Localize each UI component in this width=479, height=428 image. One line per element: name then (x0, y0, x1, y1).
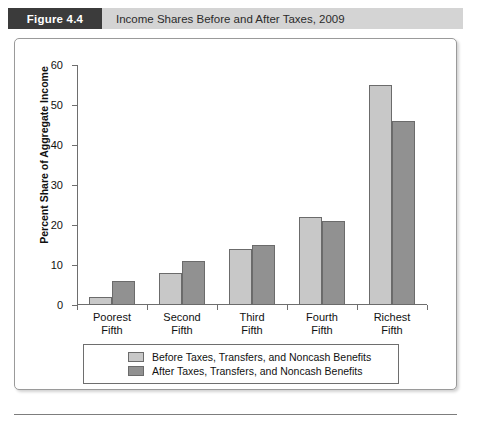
x-tick (77, 305, 78, 310)
bar (112, 281, 135, 305)
legend-entry-label: After Taxes, Transfers, and Noncash Bene… (152, 365, 363, 377)
bar (89, 297, 112, 305)
plot-area: 0102030405060 PoorestFifthSecondFifthThi… (77, 65, 427, 305)
x-category-label: RichestFifth (346, 311, 438, 337)
figure-header: Figure 4.4 Income Shares Before and Afte… (8, 8, 463, 29)
bar (182, 261, 205, 305)
y-tick-label-60: 60 (51, 59, 63, 71)
legend-entry: Before Taxes, Transfers, and Noncash Ben… (84, 350, 398, 364)
figure-number-badge: Figure 4.4 (8, 8, 102, 29)
bar (369, 85, 392, 305)
figure-caption: Income Shares Before and After Taxes, 20… (102, 8, 345, 29)
legend-entry: After Taxes, Transfers, and Noncash Bene… (84, 364, 398, 378)
y-tick-label-10: 10 (51, 259, 63, 271)
y-tick-10: 10 (72, 265, 77, 266)
legend-color-swatch (128, 366, 144, 376)
bar (322, 221, 345, 305)
y-tick-40: 40 (72, 145, 77, 146)
plot-wrapper: Percent Share of Aggregate Income 010203… (15, 39, 458, 391)
legend-color-swatch (128, 352, 144, 362)
y-tick-50: 50 (72, 105, 77, 106)
y-tick-label-0: 0 (57, 299, 63, 311)
y-tick-60: 60 (72, 65, 77, 66)
bar (229, 249, 252, 305)
x-tick (287, 305, 288, 310)
y-axis-title: Percent Share of Aggregate Income (38, 65, 50, 245)
y-tick-20: 20 (72, 225, 77, 226)
x-tick (147, 305, 148, 310)
bar (159, 273, 182, 305)
bar (299, 217, 322, 305)
bar (252, 245, 275, 305)
y-tick-label-40: 40 (51, 139, 63, 151)
bar (392, 121, 415, 305)
y-tick-label-20: 20 (51, 219, 63, 231)
x-category-label-line: Richest (346, 311, 438, 324)
y-tick-30: 30 (72, 185, 77, 186)
chart-panel: Percent Share of Aggregate Income 010203… (14, 38, 457, 390)
x-tick (217, 305, 218, 310)
bar-group (229, 65, 275, 305)
x-tick (427, 305, 428, 310)
legend-entry-label: Before Taxes, Transfers, and Noncash Ben… (152, 351, 371, 363)
y-tick-label-50: 50 (51, 99, 63, 111)
bottom-divider (14, 414, 457, 415)
y-axis-line (77, 65, 78, 305)
bar-group (299, 65, 345, 305)
bar-group (369, 65, 415, 305)
x-tick (357, 305, 358, 310)
bar-group (89, 65, 135, 305)
bar-group (159, 65, 205, 305)
chart-legend: Before Taxes, Transfers, and Noncash Ben… (83, 344, 399, 384)
y-tick-label-30: 30 (51, 179, 63, 191)
x-category-label-line: Fifth (346, 324, 438, 337)
